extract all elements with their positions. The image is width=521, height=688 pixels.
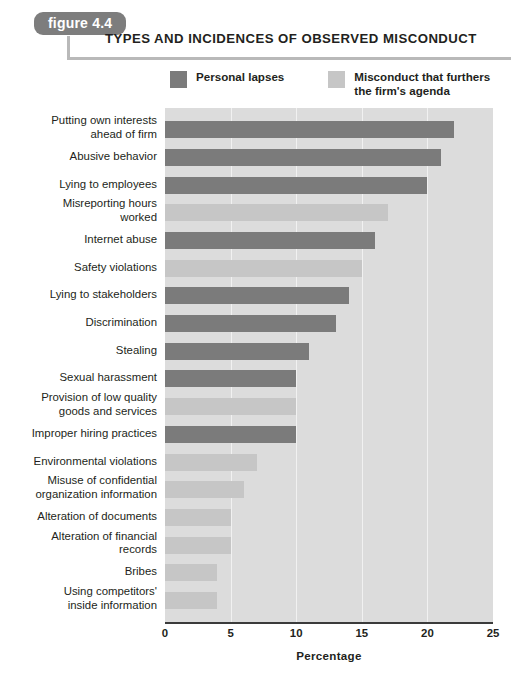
bar-firm-agenda xyxy=(165,509,231,526)
x-tick-label: 15 xyxy=(355,627,368,639)
bar-category-label: Sexual harassment xyxy=(59,371,157,384)
bar-row: Stealing xyxy=(0,343,521,360)
bar-row: Sexual harassment xyxy=(0,370,521,387)
legend-label-firm-agenda: Misconduct that furthers the firm's agen… xyxy=(354,70,490,99)
bar-firm-agenda xyxy=(165,204,388,221)
bar-personal-lapses xyxy=(165,232,375,249)
bar-row: Improper hiring practices xyxy=(0,426,521,443)
x-tick-label: 5 xyxy=(227,627,233,639)
bar-row: Discrimination xyxy=(0,315,521,332)
bar-category-label: Environmental violations xyxy=(34,455,157,468)
bar-category-label: Alteration of documents xyxy=(37,510,157,523)
bar-category-label: Bribes xyxy=(125,565,157,578)
legend-item-personal-lapses: Personal lapses xyxy=(170,70,284,88)
bar-personal-lapses xyxy=(165,121,454,138)
bar-rows: Putting own interests ahead of firmAbusi… xyxy=(0,108,521,622)
bar-category-label: Provision of low quality goods and servi… xyxy=(41,391,157,418)
bar-row: Bribes xyxy=(0,564,521,581)
figure-header: figure 4.4 TYPES AND INCIDENCES OF OBSER… xyxy=(0,0,521,66)
bar-personal-lapses xyxy=(165,149,441,166)
bar-row: Using competitors' inside information xyxy=(0,592,521,609)
bar-category-label: Misuse of confidential organization info… xyxy=(35,474,157,501)
bar-row: Safety violations xyxy=(0,260,521,277)
chart-legend: Personal lapses Misconduct that furthers… xyxy=(170,70,490,99)
legend-swatch-firm-agenda xyxy=(328,71,345,88)
bar-row: Alteration of financial records xyxy=(0,537,521,554)
chart-title: TYPES AND INCIDENCES OF OBSERVED MISCOND… xyxy=(105,31,477,46)
bar-category-label: Lying to stakeholders xyxy=(50,288,157,301)
bar-row: Alteration of documents xyxy=(0,509,521,526)
bar-category-label: Improper hiring practices xyxy=(32,427,157,440)
x-tick-label: 10 xyxy=(290,627,303,639)
bar-firm-agenda xyxy=(165,260,362,277)
legend-label-personal-lapses: Personal lapses xyxy=(196,70,284,84)
bar-row: Putting own interests ahead of firm xyxy=(0,121,521,138)
bar-category-label: Using competitors' inside information xyxy=(64,585,157,612)
x-axis-line xyxy=(165,622,493,624)
x-tick-label: 25 xyxy=(487,627,500,639)
x-tick-label: 20 xyxy=(421,627,434,639)
bar-category-label: Discrimination xyxy=(85,316,157,329)
bar-personal-lapses xyxy=(165,177,427,194)
bar-personal-lapses xyxy=(165,343,309,360)
bar-row: Internet abuse xyxy=(0,232,521,249)
bar-row: Provision of low quality goods and servi… xyxy=(0,398,521,415)
bar-row: Misuse of confidential organization info… xyxy=(0,481,521,498)
bar-category-label: Lying to employees xyxy=(59,178,157,191)
bar-category-label: Stealing xyxy=(116,344,157,357)
bar-category-label: Alteration of financial records xyxy=(51,530,157,557)
legend-swatch-personal-lapses xyxy=(170,71,187,88)
bar-firm-agenda xyxy=(165,398,296,415)
bar-row: Lying to stakeholders xyxy=(0,287,521,304)
bar-category-label: Misreporting hours worked xyxy=(63,197,157,224)
header-horizontal-rule xyxy=(67,57,511,60)
bar-personal-lapses xyxy=(165,315,336,332)
legend-item-firm-agenda: Misconduct that furthers the firm's agen… xyxy=(328,70,490,99)
x-axis-title: Percentage xyxy=(165,649,493,662)
bar-firm-agenda xyxy=(165,537,231,554)
bar-row: Environmental violations xyxy=(0,454,521,471)
x-tick-label: 0 xyxy=(162,627,168,639)
x-axis-ticks: 0510152025 xyxy=(0,627,521,645)
bar-category-label: Internet abuse xyxy=(84,233,157,246)
chart-plot-wrapper: Putting own interests ahead of firmAbusi… xyxy=(0,108,521,688)
bar-category-label: Abusive behavior xyxy=(70,150,157,163)
bar-row: Lying to employees xyxy=(0,177,521,194)
bar-firm-agenda xyxy=(165,564,217,581)
bar-row: Misreporting hours worked xyxy=(0,204,521,221)
bar-category-label: Putting own interests ahead of firm xyxy=(51,114,157,141)
bar-row: Abusive behavior xyxy=(0,149,521,166)
bar-personal-lapses xyxy=(165,287,349,304)
bar-firm-agenda xyxy=(165,454,257,471)
bar-firm-agenda xyxy=(165,481,244,498)
bar-personal-lapses xyxy=(165,370,296,387)
bar-firm-agenda xyxy=(165,592,217,609)
bar-category-label: Safety violations xyxy=(74,261,157,274)
bar-personal-lapses xyxy=(165,426,296,443)
